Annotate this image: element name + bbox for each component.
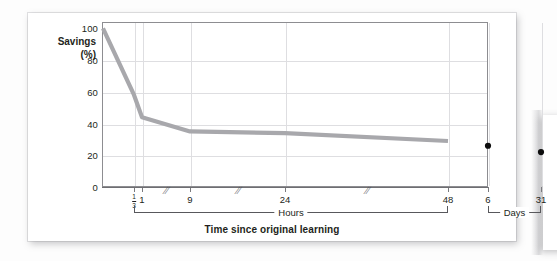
x-axis-label-24-hours: 24 <box>280 194 291 205</box>
data-layer <box>102 22 488 187</box>
figure-card: Savings (%) 100806040200 13192448631////… <box>28 13 516 241</box>
x-axis-label-6-days: 6 <box>485 194 490 205</box>
y-axis-tick-40: 40 <box>72 118 98 129</box>
y-axis-tick-labels: 100806040200 <box>68 22 98 187</box>
y-axis-tick-20: 20 <box>72 150 98 161</box>
x-axis-label-48-hours: 48 <box>443 194 454 205</box>
retention-curve-line <box>103 28 448 141</box>
data-point-31-days <box>538 149 544 155</box>
screenshot-root: Savings (%) 100806040200 13192448631////… <box>0 0 557 261</box>
bracket-days-label: Days <box>500 207 530 218</box>
y-axis-tick-80: 80 <box>72 55 98 66</box>
x-axis-title: Time since original learning <box>28 224 516 235</box>
x-axis-label-9-hours: 9 <box>187 194 192 205</box>
y-axis-tick-60: 60 <box>72 86 98 97</box>
x-axis-tick-6 <box>488 187 489 192</box>
gridline-vertical <box>542 23 543 186</box>
adjacent-card-partial <box>543 115 557 250</box>
x-axis-label-31-days: 31 <box>536 194 547 205</box>
x-axis-tick-31 <box>541 187 542 192</box>
y-axis-tick-0: 0 <box>72 182 98 193</box>
forgetting-curve-chart: Savings (%) 100806040200 13192448631////… <box>28 13 516 241</box>
data-point-6-days <box>485 143 491 149</box>
x-axis-label-1-hours: 1 <box>139 194 144 205</box>
x-axis-baseline <box>102 187 488 188</box>
y-axis-tick-100: 100 <box>72 23 98 34</box>
bracket-hours-label: Hours <box>274 207 307 218</box>
gridline-vertical <box>489 23 490 186</box>
